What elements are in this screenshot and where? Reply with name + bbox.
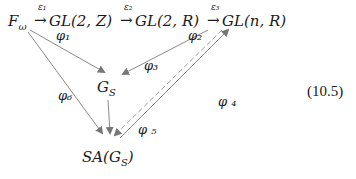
label-epsilon3: ε₃ (211, 2, 219, 12)
label-phi2: φ₂ (188, 28, 202, 43)
node-gs: GS (97, 78, 116, 98)
node-sa-gs: SA(GS) (82, 148, 134, 168)
equation-number: (10.5) (307, 83, 343, 100)
arrow-epsilon2: → (120, 11, 133, 29)
node-f-omega: Fω (8, 12, 27, 32)
label-phi6: φ₆ (58, 88, 72, 103)
arrow-epsilon3: → (207, 11, 220, 29)
arrow-phi4 (120, 30, 228, 138)
label-phi5: φ ₅ (138, 122, 156, 137)
label-epsilon2: ε₂ (124, 2, 132, 12)
label-phi3: φ₃ (144, 58, 158, 73)
arrow-gs-to-sa (108, 100, 110, 133)
label-phi4: φ ₄ (218, 94, 236, 109)
arrow-phi6 (28, 32, 102, 133)
node-glnr: GL(n, R) (222, 12, 286, 30)
label-phi1: φ₁ (56, 28, 70, 43)
label-epsilon1: ε₁ (38, 2, 46, 12)
arrow-epsilon1: → (34, 11, 47, 29)
dashed-arrow-phi5 (115, 30, 222, 135)
